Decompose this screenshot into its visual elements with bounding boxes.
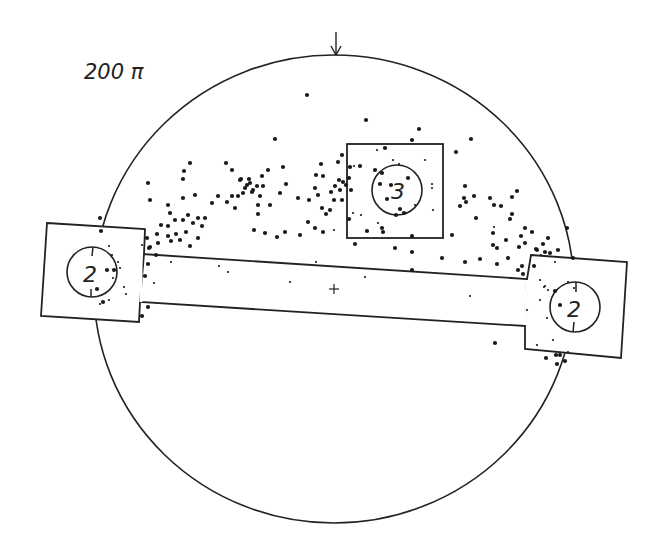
data-dot: [526, 309, 528, 311]
data-dot: [166, 234, 170, 238]
data-dot: [117, 261, 119, 263]
data-dot: [196, 216, 200, 220]
data-dot: [146, 262, 150, 266]
data-dot: [555, 362, 559, 366]
data-dot: [348, 165, 352, 169]
data-dot: [236, 194, 240, 198]
data-dot: [464, 200, 468, 204]
data-dot: [534, 247, 538, 251]
data-dot: [333, 184, 337, 188]
data-dot: [508, 217, 512, 221]
data-dot: [233, 206, 237, 210]
data-dot: [492, 203, 496, 207]
data-dot: [410, 250, 414, 254]
data-dot: [319, 162, 323, 166]
data-dot: [156, 241, 160, 245]
data-dot: [398, 163, 400, 165]
data-dot: [316, 193, 320, 197]
top-region-label: 3: [391, 179, 405, 204]
data-dot: [539, 279, 541, 281]
data-dot: [547, 289, 549, 291]
data-dot: [349, 188, 353, 192]
data-dot: [333, 229, 335, 231]
data-dot: [553, 289, 557, 293]
data-dot: [462, 196, 466, 200]
data-dot: [431, 187, 433, 189]
data-dot: [358, 164, 362, 168]
data-dot: [250, 190, 254, 194]
down-arrow-icon: [331, 32, 341, 55]
data-dot: [181, 218, 185, 222]
data-dot: [554, 353, 558, 357]
data-dot: [256, 212, 260, 216]
data-dot: [256, 203, 260, 207]
data-dot: [112, 277, 114, 279]
data-dot: [95, 287, 99, 291]
data-dot: [247, 177, 251, 181]
data-dot: [307, 198, 311, 202]
data-dot: [145, 236, 149, 240]
data-dot: [210, 201, 214, 205]
data-dot: [414, 204, 416, 206]
data-dot: [540, 254, 542, 256]
data-dot: [321, 230, 325, 234]
data-dot: [546, 317, 548, 319]
data-dot: [283, 230, 287, 234]
data-dot: [178, 238, 182, 242]
data-dot: [289, 281, 291, 283]
data-dot: [159, 223, 163, 227]
data-dot: [313, 226, 317, 230]
data-dot: [410, 138, 414, 142]
data-dot: [275, 235, 279, 239]
diagram-title: 200 π: [84, 60, 144, 84]
data-dot: [306, 220, 310, 224]
data-dot: [517, 245, 521, 249]
data-dot: [383, 146, 387, 150]
data-dot: [258, 194, 262, 198]
data-dot: [510, 212, 514, 216]
data-dot: [515, 189, 519, 193]
data-dot: [353, 242, 357, 246]
data-dot: [385, 197, 389, 201]
data-dot: [329, 190, 333, 194]
data-dot: [105, 268, 109, 272]
data-dot: [320, 206, 324, 210]
data-dot: [224, 161, 228, 165]
right-region-box: 2: [525, 255, 627, 358]
data-dot: [218, 265, 220, 267]
data-dot: [478, 257, 482, 261]
data-dot: [186, 213, 190, 217]
data-dot: [516, 268, 520, 272]
data-dot: [273, 137, 277, 141]
data-dot: [230, 194, 234, 198]
data-dot: [332, 198, 336, 202]
data-dot: [168, 211, 172, 215]
data-dot: [101, 300, 105, 304]
data-dot: [536, 344, 538, 346]
data-dot: [510, 195, 514, 199]
data-dot: [148, 198, 152, 202]
data-dot: [394, 213, 398, 217]
data-dot: [398, 207, 402, 211]
data-dot: [170, 261, 172, 263]
data-dot: [184, 230, 188, 234]
data-dot: [108, 299, 110, 301]
data-dot: [556, 248, 560, 252]
data-dot: [530, 230, 534, 234]
data-dot: [238, 178, 242, 182]
data-dot: [389, 183, 393, 187]
left-region-label: 2: [83, 262, 97, 287]
data-dot: [252, 228, 256, 232]
data-dot: [141, 244, 143, 246]
data-dot: [519, 234, 523, 238]
data-dot: [119, 267, 121, 269]
data-dot: [521, 272, 525, 276]
data-dot: [571, 256, 575, 260]
data-dot: [563, 359, 567, 363]
data-dot: [284, 182, 288, 186]
data-dot: [111, 254, 113, 256]
data-dot: [410, 234, 414, 238]
data-dot: [193, 193, 197, 197]
data-dot: [491, 231, 495, 235]
data-dot: [393, 246, 397, 250]
